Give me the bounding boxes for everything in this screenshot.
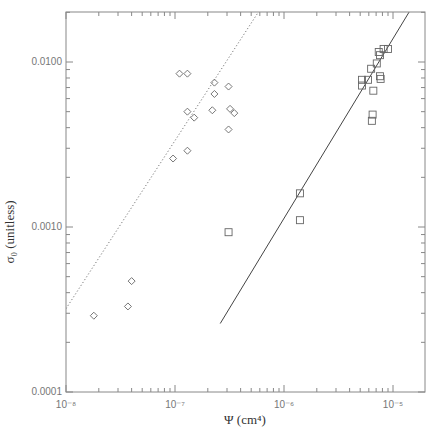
square-marker: [370, 87, 377, 94]
plot-frame: [66, 12, 425, 392]
diamond-marker: [225, 83, 232, 90]
square-marker: [296, 217, 303, 224]
diamond-marker: [176, 70, 183, 77]
diamond-marker: [184, 108, 191, 115]
x-tick-label: 10⁻⁸: [56, 399, 76, 410]
data-points: [90, 45, 391, 319]
x-tick-label: 10⁻⁵: [383, 399, 403, 410]
scatter-chart: 10⁻⁸10⁻⁷10⁻⁶10⁻⁵0.00010.00100.0100 Ψ (cm…: [0, 0, 434, 432]
diamond-marker: [191, 114, 198, 121]
y-tick-label: 0.0001: [31, 386, 62, 397]
diamond-marker: [124, 303, 131, 310]
diamond-marker: [225, 126, 232, 133]
dotted-fit-line: [66, 12, 258, 308]
y-axis-title: σ₀ (unitless): [2, 200, 17, 263]
square-marker: [225, 229, 232, 236]
x-tick-label: 10⁻⁷: [165, 399, 185, 410]
axis-ticks: [66, 12, 425, 392]
diamond-marker: [184, 147, 191, 154]
diamond-marker: [90, 312, 97, 319]
axis-labels: 10⁻⁸10⁻⁷10⁻⁶10⁻⁵0.00010.00100.0100: [31, 56, 403, 410]
x-axis-title: Ψ (cm⁴): [224, 412, 266, 427]
diamond-marker: [128, 278, 135, 285]
fit-lines: [66, 12, 409, 323]
y-tick-label: 0.0100: [31, 56, 62, 67]
diamond-marker: [184, 70, 191, 77]
y-tick-label: 0.0010: [31, 221, 62, 232]
diamond-marker: [170, 155, 177, 162]
plot-axes: [66, 12, 425, 392]
x-tick-label: 10⁻⁶: [274, 399, 294, 410]
diamond-marker: [211, 90, 218, 97]
diamond-marker: [209, 107, 216, 114]
